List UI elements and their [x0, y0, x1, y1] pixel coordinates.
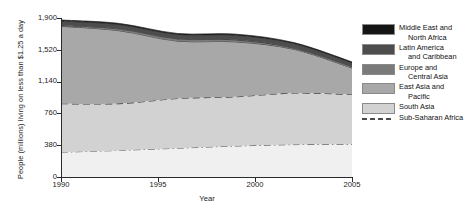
legend-swatch: [362, 24, 395, 35]
legend-label-line2: and Caribbean: [399, 52, 475, 62]
x-tick-mark: [158, 178, 159, 182]
y-tick-label: 1,520: [5, 46, 57, 54]
legend-swatch: [362, 103, 395, 114]
x-tick-mark: [61, 178, 62, 182]
x-tick-mark: [255, 178, 256, 182]
y-tick-label: 380: [5, 141, 57, 149]
legend-swatch: [362, 83, 395, 94]
plot-area: [61, 18, 352, 177]
legend-label-line2: Pacific: [399, 92, 475, 102]
legend-label-line2: North Africa: [399, 33, 475, 43]
y-axis-line: [61, 18, 62, 178]
legend-label-line2: Central Asia: [399, 72, 475, 82]
y-tick-label: 760: [5, 109, 57, 117]
legend-label: Europe andCentral Asia: [399, 63, 475, 82]
legend-swatch: [362, 114, 393, 123]
y-tick-label: 1,900: [5, 14, 57, 22]
legend-swatch: [362, 44, 395, 55]
y-tick-label: 1,140: [5, 77, 57, 85]
stacked-area-svg: [61, 18, 352, 177]
chart-figure: People (millions) living on less than $1…: [0, 0, 475, 219]
x-tick-mark: [352, 178, 353, 182]
x-axis-line: [61, 177, 353, 178]
x-axis-title: Year: [61, 194, 353, 203]
legend-label: South Asia: [399, 102, 475, 112]
legend-label: East Asia andPacific: [399, 82, 475, 101]
legend-label: Sub-Saharan Africa: [399, 113, 475, 123]
legend-label: Middle East andNorth Africa: [399, 23, 475, 42]
legend-label: Latin Americaand Caribbean: [399, 43, 475, 62]
legend-swatch: [362, 64, 395, 75]
